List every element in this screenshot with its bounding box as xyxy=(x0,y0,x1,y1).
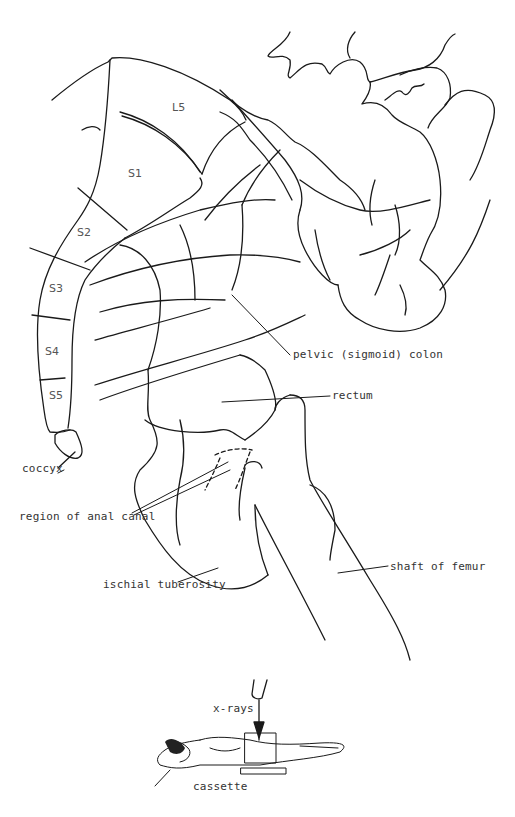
xray-source xyxy=(252,680,267,740)
sacrum-outline xyxy=(30,58,246,433)
label-s5: S5 xyxy=(49,389,63,402)
label-femur: shaft of femur xyxy=(390,560,486,573)
label-s1: S1 xyxy=(128,167,142,180)
colon-loops xyxy=(220,32,495,331)
label-l5: L5 xyxy=(172,101,185,114)
anatomy-diagram: L5 S1 S2 S3 S4 S5 coccyx pelvic (sigmoid… xyxy=(0,0,515,817)
pelvis-lines xyxy=(85,150,305,400)
label-cassette: cassette xyxy=(193,780,248,793)
label-xrays: x-rays xyxy=(213,702,254,715)
label-rectum: rectum xyxy=(332,389,373,402)
coccyx-shape xyxy=(55,430,82,458)
patient-figure xyxy=(158,733,344,774)
label-s2: S2 xyxy=(77,226,91,239)
label-coccyx: coccyx xyxy=(22,462,63,475)
label-anal-canal: region of anal canal xyxy=(19,510,155,523)
label-pelvic-colon: pelvic (sigmoid) colon xyxy=(293,348,443,361)
label-ischial-tuberosity: ischial tuberosity xyxy=(103,578,226,591)
diagram-lines xyxy=(0,0,515,817)
label-s4: S4 xyxy=(45,345,59,358)
label-s3: S3 xyxy=(49,282,63,295)
